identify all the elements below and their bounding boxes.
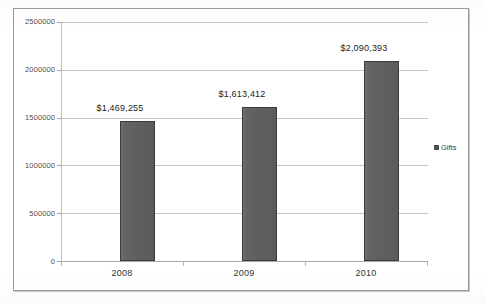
- y-axis-line: [61, 22, 62, 262]
- bar-2010[interactable]: [364, 61, 399, 261]
- bar-label-2010: $2,090,393: [324, 44, 404, 53]
- y-tick-mark-500000: [57, 213, 61, 214]
- y-tick-mark-1000000: [57, 165, 61, 166]
- x-tick-mark-0: [61, 262, 62, 266]
- x-category-label-2010: 2010: [326, 269, 406, 278]
- x-tick-mark-3: [427, 262, 428, 266]
- bar-2008[interactable]: [120, 121, 155, 262]
- y-tick-label-2000000: 2000000: [25, 66, 55, 74]
- legend-label-gifts: Gifts: [441, 144, 456, 152]
- y-tick-mark-2500000: [57, 22, 61, 23]
- y-tick-label-0: 0: [51, 258, 55, 266]
- y-tick-mark-2000000: [57, 70, 61, 71]
- y-tick-mark-1500000: [57, 118, 61, 119]
- y-axis-tick-labels: 2500000 2000000 1500000 1000000 500000 0: [0, 0, 55, 304]
- bar-2009[interactable]: [242, 107, 277, 261]
- legend-swatch-gifts: [434, 145, 439, 150]
- y-tick-label-2500000: 2500000: [25, 18, 55, 26]
- y-tick-label-500000: 500000: [29, 210, 55, 218]
- x-tick-mark-1: [183, 262, 184, 266]
- gridline-2500000: [61, 22, 428, 23]
- x-category-label-2009: 2009: [204, 269, 284, 278]
- plot-wrapper: 2500000 2000000 1500000 1000000 500000 0…: [0, 0, 486, 304]
- x-axis-line: [61, 261, 428, 262]
- bar-label-2008: $1,469,255: [80, 104, 160, 113]
- chart-legend: Gifts: [434, 144, 456, 152]
- y-tick-label-1500000: 1500000: [25, 114, 55, 122]
- plot-area: [61, 22, 428, 261]
- y-tick-label-1000000: 1000000: [25, 162, 55, 170]
- x-category-label-2008: 2008: [82, 269, 162, 278]
- chart-figure: 2500000 2000000 1500000 1000000 500000 0…: [0, 0, 486, 304]
- x-tick-mark-2: [305, 262, 306, 266]
- bar-label-2009: $1,613,412: [202, 90, 282, 99]
